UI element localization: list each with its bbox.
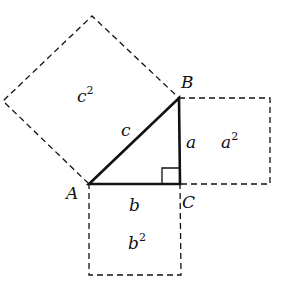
pythagorean-diagram: A B C c a b c2 a2 b2 xyxy=(0,0,284,293)
square-c2 xyxy=(3,16,179,184)
side-label-c: c xyxy=(121,120,131,140)
vertex-label-c: C xyxy=(182,192,195,212)
side-label-b: b xyxy=(129,195,140,215)
square-label-b2: b2 xyxy=(128,231,146,253)
right-triangle xyxy=(89,98,180,184)
square-label-c2: c2 xyxy=(77,84,94,106)
vertex-label-b: B xyxy=(180,72,194,92)
side-label-a: a xyxy=(186,132,196,152)
square-label-a2: a2 xyxy=(221,130,238,152)
vertex-label-a: A xyxy=(64,183,78,203)
right-angle-marker xyxy=(162,168,179,184)
